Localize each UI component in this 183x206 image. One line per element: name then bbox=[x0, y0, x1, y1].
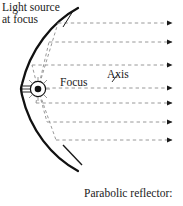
focus-label: Focus bbox=[60, 76, 87, 88]
caption-line-1: Parabolic reflector: bbox=[84, 186, 172, 200]
light-source-label: Light source at focus bbox=[2, 1, 60, 25]
parabolic-reflector-figure: Light source at focus Focus Axis Parabol… bbox=[0, 0, 183, 206]
axis-label: Axis bbox=[107, 68, 129, 80]
focus-dot bbox=[35, 86, 42, 93]
caption-block: Parabolic reflector: Light is reflected … bbox=[84, 158, 172, 206]
